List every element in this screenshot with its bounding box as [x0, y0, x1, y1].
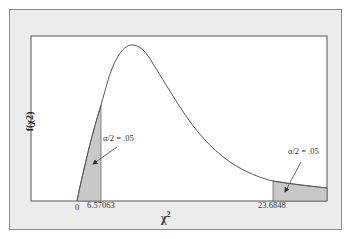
plot-area — [31, 36, 327, 201]
y-axis-label: f(χ2) — [24, 107, 35, 137]
right-tail-annotation: α/2 = .05 — [288, 146, 319, 156]
tick-label-lower-critical: 6.57063 — [87, 200, 115, 210]
chi-square-plot — [0, 0, 346, 239]
x-axis-label-sup: 2 — [167, 210, 171, 219]
tick-label-upper-critical: 23.6848 — [258, 200, 286, 210]
tick-label-zero: 0 — [75, 202, 79, 212]
left-tail-annotation: α/2 = .05 — [103, 133, 134, 143]
x-axis-label: χ2 — [161, 210, 171, 226]
